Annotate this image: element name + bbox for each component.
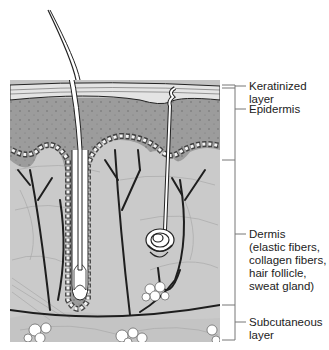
label-subcutaneous-layer: Subcutaneous layer — [249, 316, 323, 342]
label-epidermis: Epidermis — [249, 103, 300, 116]
label-brackets — [222, 85, 246, 340]
skin-cross-section-diagram — [0, 0, 329, 350]
label-dermis: Dermis (elastic fibers, collagen fibers,… — [249, 228, 326, 293]
